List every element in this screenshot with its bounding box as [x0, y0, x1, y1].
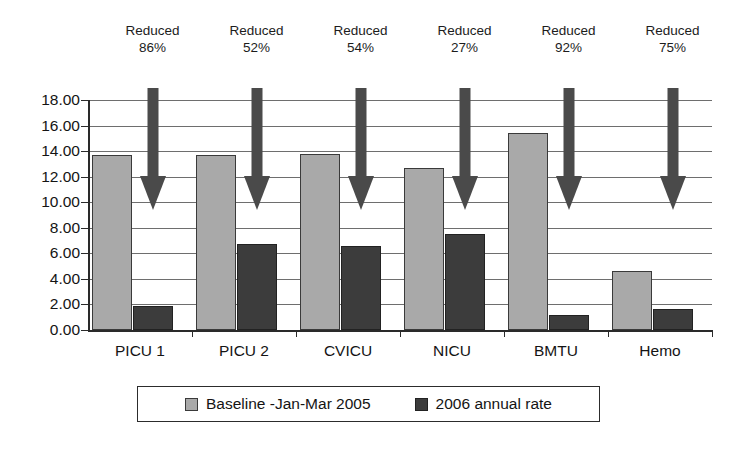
bar-baseline: [196, 155, 236, 330]
arrow-head: [660, 176, 686, 210]
annotation-percent: 86%: [98, 39, 208, 56]
bar-rate-2006: [341, 246, 381, 330]
y-axis-tick-label: 12.00: [10, 169, 80, 184]
bar-rate-2006: [237, 244, 277, 330]
arrow-head: [140, 176, 166, 210]
bar-rate-2006: [445, 234, 485, 330]
arrow-shaft: [251, 88, 262, 178]
plot-area: [88, 100, 712, 330]
arrow-head: [452, 176, 478, 210]
bar-rate-2006: [133, 306, 173, 330]
down-arrow-icon: [660, 88, 686, 210]
gridline: [88, 253, 712, 254]
gridline: [88, 151, 712, 152]
legend-swatch-icon: [415, 398, 428, 411]
x-axis-category-label: BMTU: [504, 342, 608, 360]
legend-item-baseline: Baseline -Jan-Mar 2005: [185, 395, 371, 413]
x-axis-tick-mark: [608, 330, 609, 337]
annotation-line-1: Reduced: [410, 22, 520, 39]
gridline: [88, 126, 712, 127]
down-arrow-icon: [244, 88, 270, 210]
annotation-percent: 52%: [202, 39, 312, 56]
arrow-head: [556, 176, 582, 210]
bar-chart: Reduced86%Reduced52%Reduced54%Reduced27%…: [0, 0, 734, 451]
y-axis-tick-mark: [81, 126, 88, 127]
legend-item-2006: 2006 annual rate: [415, 395, 552, 413]
reduction-annotation: Reduced54%: [306, 22, 416, 56]
y-axis-tick-label: 18.00: [10, 92, 80, 107]
y-axis-tick-label: 16.00: [10, 118, 80, 133]
x-axis-category-label: PICU 1: [88, 342, 192, 360]
bar-rate-2006: [653, 309, 693, 330]
y-axis-tick-label: 8.00: [10, 220, 80, 235]
gridline: [88, 100, 712, 101]
legend-swatch-icon: [185, 398, 198, 411]
annotation-line-1: Reduced: [202, 22, 312, 39]
x-axis-category-label: Hemo: [608, 342, 712, 360]
bar-baseline: [612, 271, 652, 330]
arrow-shaft: [563, 88, 574, 178]
annotation-line-1: Reduced: [514, 22, 624, 39]
gridline: [88, 228, 712, 229]
arrow-shaft: [355, 88, 366, 178]
y-axis-line: [88, 100, 90, 331]
x-axis-category-label: NICU: [400, 342, 504, 360]
bar-rate-2006: [549, 315, 589, 330]
reduction-annotation: Reduced86%: [98, 22, 208, 56]
reduction-annotation: Reduced75%: [618, 22, 728, 56]
x-axis-tick-mark: [400, 330, 401, 337]
annotation-line-1: Reduced: [306, 22, 416, 39]
arrow-shaft: [459, 88, 470, 178]
annotation-percent: 54%: [306, 39, 416, 56]
y-axis-tick-mark: [81, 279, 88, 280]
bar-baseline: [300, 154, 340, 330]
y-axis-tick-mark: [81, 100, 88, 101]
annotation-percent: 75%: [618, 39, 728, 56]
y-axis-tick-label: 10.00: [10, 194, 80, 209]
annotation-line-1: Reduced: [98, 22, 208, 39]
down-arrow-icon: [140, 88, 166, 210]
chart-legend: Baseline -Jan-Mar 2005 2006 annual rate: [137, 386, 600, 422]
legend-label: 2006 annual rate: [436, 395, 552, 413]
arrow-head: [348, 176, 374, 210]
y-axis-tick-mark: [81, 330, 88, 331]
x-axis-tick-mark: [712, 330, 713, 337]
y-axis-tick-mark: [81, 253, 88, 254]
annotation-line-1: Reduced: [618, 22, 728, 39]
x-axis-tick-mark: [504, 330, 505, 337]
bar-baseline: [92, 155, 132, 330]
x-axis-category-label: CVICU: [296, 342, 400, 360]
reduction-annotation: Reduced52%: [202, 22, 312, 56]
y-axis-tick-label: 2.00: [10, 296, 80, 311]
bar-baseline: [508, 133, 548, 330]
gridline: [88, 177, 712, 178]
y-axis-tick-mark: [81, 304, 88, 305]
bar-baseline: [404, 168, 444, 330]
y-axis-tick-label: 0.00: [10, 322, 80, 337]
reduction-annotation: Reduced27%: [410, 22, 520, 56]
arrow-head: [244, 176, 270, 210]
x-axis-category-label: PICU 2: [192, 342, 296, 360]
y-axis-tick-label: 4.00: [10, 271, 80, 286]
annotation-percent: 92%: [514, 39, 624, 56]
arrow-shaft: [147, 88, 158, 178]
y-axis-tick-mark: [81, 202, 88, 203]
x-axis-tick-mark: [296, 330, 297, 337]
annotation-percent: 27%: [410, 39, 520, 56]
reduction-annotation: Reduced92%: [514, 22, 624, 56]
legend-label: Baseline -Jan-Mar 2005: [206, 395, 371, 413]
y-axis-tick-mark: [81, 151, 88, 152]
gridline: [88, 202, 712, 203]
y-axis-tick-label: 14.00: [10, 143, 80, 158]
down-arrow-icon: [348, 88, 374, 210]
x-axis-tick-mark: [192, 330, 193, 337]
y-axis-tick-label: 6.00: [10, 245, 80, 260]
arrow-shaft: [667, 88, 678, 178]
down-arrow-icon: [556, 88, 582, 210]
y-axis-tick-mark: [81, 177, 88, 178]
y-axis-tick-mark: [81, 228, 88, 229]
down-arrow-icon: [452, 88, 478, 210]
